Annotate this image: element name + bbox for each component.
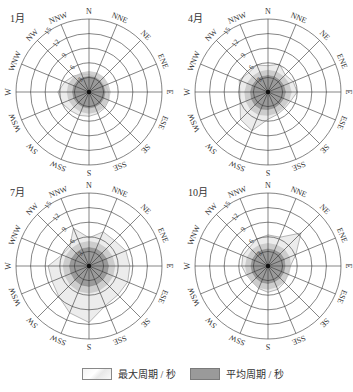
- direction-label-s: S: [266, 342, 270, 351]
- direction-label-se: SE: [139, 142, 152, 155]
- ring-label: 12: [51, 212, 62, 223]
- direction-label-ne: NE: [139, 28, 153, 42]
- direction-label-nnw: NNW: [48, 10, 70, 26]
- direction-label-w: W: [183, 88, 192, 96]
- direction-label-sse: SSE: [112, 333, 128, 347]
- grid-spoke: [89, 40, 141, 92]
- legend-label-max: 最大周期 / 秒: [118, 366, 176, 381]
- direction-label-ese: ESE: [335, 114, 349, 131]
- legend-swatch-avg: [190, 368, 220, 380]
- panel-april: NNNENEENEEESESESSESSSWSWWSWWWNWNWNNW3691…: [183, 7, 353, 177]
- direction-label-n: N: [265, 181, 271, 190]
- direction-label-wnw: WNW: [186, 223, 202, 246]
- direction-label-n: N: [265, 7, 271, 16]
- direction-label-ene: ENE: [335, 226, 349, 244]
- direction-label-ese: ESE: [156, 114, 170, 131]
- direction-label-sse: SSE: [112, 159, 128, 173]
- ring-label: 15: [222, 200, 233, 211]
- direction-label-wsw: WSW: [7, 112, 23, 134]
- direction-label-n: N: [86, 181, 92, 190]
- direction-label-n: N: [86, 7, 92, 16]
- direction-label-se: SE: [139, 316, 152, 329]
- direction-label-wsw: WSW: [186, 112, 202, 134]
- ring-label: 12: [230, 38, 241, 49]
- panel-july: NNNENEENEEESESESSESSSWSWWSWWWNWNWNNW3691…: [4, 181, 174, 351]
- panel-october: NNNENEENEEESESESSESSSWSWWSWWWNWNWNNW3691…: [183, 181, 353, 351]
- wind-rose-figure: NNNENEENEEESESESSESSSWSWWSWWWNWNWNNW3691…: [0, 0, 353, 392]
- panel-title: 7月: [10, 187, 25, 198]
- ring-label: 12: [51, 38, 62, 49]
- direction-label-wnw: WNW: [7, 223, 23, 246]
- grid-spoke: [216, 266, 268, 318]
- direction-label-w: W: [4, 262, 13, 270]
- direction-label-wnw: WNW: [186, 49, 202, 72]
- legend-swatch-max: [82, 368, 112, 380]
- direction-label-nnw: NNW: [227, 10, 249, 26]
- panel-title: 4月: [188, 13, 203, 24]
- center-dot: [87, 264, 91, 268]
- direction-label-nnw: NNW: [48, 184, 70, 200]
- legend-label-avg: 平均周期 / 秒: [226, 366, 284, 381]
- panel-january: NNNENEENEEESESESSESSSWSWWSWWWNWNWNNW3691…: [4, 7, 174, 177]
- direction-label-e: E: [165, 264, 174, 269]
- direction-label-ene: ENE: [156, 226, 170, 244]
- direction-label-s: S: [87, 342, 91, 351]
- direction-label-s: S: [87, 168, 91, 177]
- direction-label-sse: SSE: [291, 333, 307, 347]
- direction-label-s: S: [266, 168, 270, 177]
- direction-label-ne: NE: [318, 28, 332, 42]
- direction-label-w: W: [4, 88, 13, 96]
- ring-label: 12: [230, 212, 241, 223]
- ring-label: 15: [43, 26, 54, 37]
- legend-item-avg: 平均周期 / 秒: [190, 366, 284, 381]
- direction-label-ese: ESE: [335, 288, 349, 305]
- legend: 最大周期 / 秒 平均周期 / 秒: [0, 366, 353, 386]
- direction-label-w: W: [183, 262, 192, 270]
- legend-item-max: 最大周期 / 秒: [82, 366, 176, 381]
- panel-title: 10月: [188, 187, 208, 198]
- direction-label-ese: ESE: [156, 288, 170, 305]
- direction-label-ne: NE: [318, 202, 332, 216]
- ring-label: 15: [222, 26, 233, 37]
- direction-label-sse: SSE: [291, 159, 307, 173]
- direction-label-se: SE: [318, 316, 331, 329]
- grid-spoke: [268, 92, 320, 144]
- grid-spoke: [89, 92, 141, 144]
- direction-label-ne: NE: [139, 202, 153, 216]
- grid-spoke: [268, 266, 320, 318]
- direction-label-se: SE: [318, 142, 331, 155]
- direction-label-wsw: WSW: [7, 286, 23, 308]
- center-dot: [266, 90, 270, 94]
- center-dot: [266, 264, 270, 268]
- center-dot: [87, 90, 91, 94]
- direction-label-nnw: NNW: [227, 184, 249, 200]
- panel-title: 1月: [10, 13, 25, 24]
- direction-label-e: E: [165, 90, 174, 95]
- direction-label-e: E: [344, 90, 353, 95]
- direction-label-wsw: WSW: [186, 286, 202, 308]
- direction-label-ene: ENE: [335, 52, 349, 70]
- direction-label-ene: ENE: [156, 52, 170, 70]
- direction-label-wnw: WNW: [7, 49, 23, 72]
- direction-label-e: E: [344, 264, 353, 269]
- ring-label: 15: [43, 200, 54, 211]
